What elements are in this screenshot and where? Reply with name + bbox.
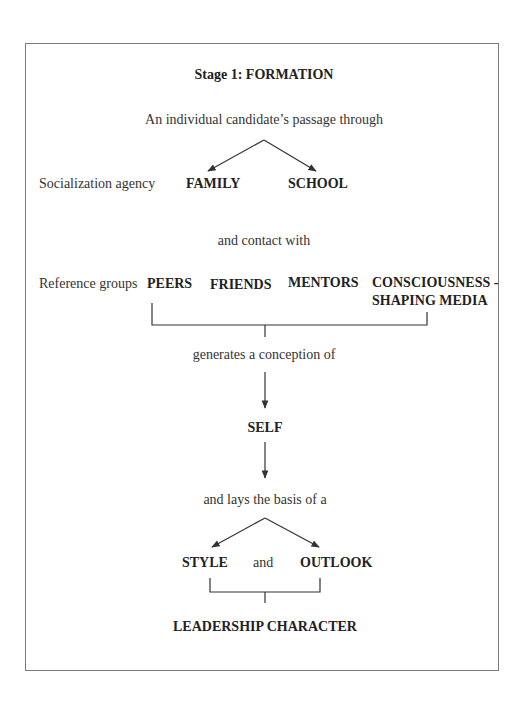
node-peers: PEERS	[147, 277, 192, 291]
node-leadership-character: LEADERSHIP CHARACTER	[173, 620, 357, 634]
lays-basis-text: and lays the basis of a	[203, 493, 326, 507]
node-school: SCHOOL	[288, 177, 348, 191]
contact-text: and contact with	[218, 234, 311, 248]
stage-title: Stage 1: FORMATION	[195, 68, 334, 82]
node-media-line1: CONSCIOUSNESS -	[372, 276, 498, 290]
and-connector: and	[253, 556, 273, 570]
outcome-bracket	[210, 578, 320, 603]
fork-arrows-bottom	[212, 518, 319, 547]
generates-text: generates a conception of	[193, 348, 336, 362]
node-outlook: OUTLOOK	[300, 556, 372, 570]
node-mentors: MENTORS	[288, 276, 359, 290]
node-family: FAMILY	[186, 177, 240, 191]
reference-label: Reference groups	[39, 277, 137, 291]
reference-groups-bracket	[152, 303, 427, 337]
socialization-label: Socialization agency	[39, 177, 155, 191]
node-media-line2: SHAPING MEDIA	[372, 294, 488, 308]
node-self: SELF	[247, 421, 282, 435]
node-friends: FRIENDS	[210, 278, 271, 292]
fork-arrows-top	[208, 140, 316, 171]
intro-text: An individual candidate’s passage throug…	[145, 113, 383, 127]
node-style: STYLE	[182, 556, 228, 570]
